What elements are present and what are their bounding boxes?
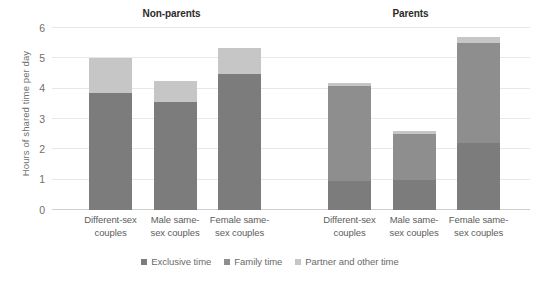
bar-segment-partner-and-other-time [218, 48, 261, 74]
bar-segment-exclusive-time [457, 143, 500, 210]
y-axis-tick-label: 0 [39, 205, 45, 216]
bar-segment-family-time [457, 43, 500, 143]
bar-segment-exclusive-time [89, 93, 132, 210]
bar-segment-partner-and-other-time [154, 81, 197, 102]
gridline [52, 27, 530, 28]
bar-segment-family-time [393, 134, 436, 180]
bar-stack [218, 48, 261, 210]
stacked-bar-chart: Hours of shared time per day 0123456 Exc… [0, 0, 540, 284]
bar-segment-exclusive-time [218, 74, 261, 211]
legend-swatch-icon [141, 259, 147, 265]
y-axis-tick-label: 3 [39, 114, 45, 125]
y-axis-tick-label: 5 [39, 53, 45, 64]
plot-area: 0123456 [52, 28, 530, 210]
legend-item[interactable]: Exclusive time [141, 256, 211, 267]
bar-segment-exclusive-time [154, 102, 197, 210]
y-axis-tick-label: 1 [39, 174, 45, 185]
y-axis-title: Hours of shared time per day [20, 19, 31, 209]
bar-stack [89, 58, 132, 210]
legend-item[interactable]: Family time [224, 256, 282, 267]
legend-swatch-icon [224, 259, 230, 265]
bar-segment-exclusive-time [328, 181, 371, 210]
category-label: Female same-sex couples [202, 214, 278, 239]
legend-swatch-icon [295, 259, 301, 265]
legend-label: Family time [234, 256, 282, 267]
bar-segment-partner-and-other-time [89, 58, 132, 93]
bar-segment-family-time [328, 86, 371, 182]
y-axis-tick-label: 2 [39, 144, 45, 155]
legend-item[interactable]: Partner and other time [295, 256, 398, 267]
bar-stack [154, 81, 197, 210]
panel-title-parents: Parents [291, 8, 530, 19]
bar-stack [457, 37, 500, 210]
legend-label: Partner and other time [305, 256, 398, 267]
panel-title-non-parents: Non-parents [52, 8, 291, 19]
bar-stack [328, 83, 371, 210]
bar-stack [393, 131, 436, 210]
chart-legend: Exclusive timeFamily timePartner and oth… [0, 256, 540, 267]
y-axis-tick-label: 4 [39, 83, 45, 94]
category-label: Female same-sex couples [441, 214, 517, 239]
bar-segment-exclusive-time [393, 180, 436, 210]
legend-label: Exclusive time [151, 256, 211, 267]
y-axis-tick-label: 6 [39, 23, 45, 34]
